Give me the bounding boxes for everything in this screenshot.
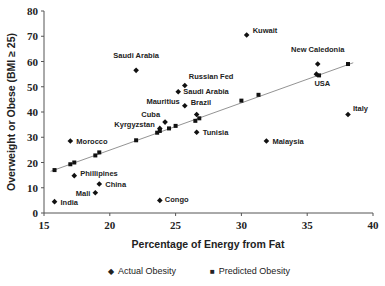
actual-point	[345, 112, 351, 118]
x-axis-title: Percentage of Energy from Fat	[132, 238, 285, 250]
actual-point	[175, 89, 181, 95]
actual-point	[315, 61, 321, 67]
x-tick-label: 40	[368, 219, 380, 231]
point-label: Morocco	[76, 137, 108, 146]
predicted-point	[239, 99, 243, 103]
predicted-point	[72, 161, 76, 165]
point-label: Brazil	[191, 98, 211, 107]
x-tick-label: 15	[39, 219, 51, 231]
actual-point	[52, 199, 58, 205]
x-tick-label: 25	[170, 219, 182, 231]
point-label: Kuwait	[253, 26, 278, 35]
y-tick-label: 20	[27, 157, 39, 169]
point-label: Russian Fed	[189, 72, 234, 81]
y-tick-label: 80	[27, 5, 39, 17]
diamond-icon: ◆	[108, 267, 114, 276]
y-tick-label: 40	[27, 106, 39, 118]
point-label: Malaysia	[272, 137, 304, 146]
point-label: Mali	[76, 189, 91, 198]
actual-point	[133, 68, 139, 74]
predicted-point	[53, 168, 57, 172]
legend-predicted: ■ Predicted Obesity	[210, 266, 290, 276]
predicted-point	[346, 62, 350, 66]
point-label: Phillipines	[80, 169, 118, 178]
y-tick-label: 10	[27, 182, 39, 194]
legend-actual-label: Actual Obesity	[118, 266, 176, 276]
predicted-point	[257, 93, 261, 97]
y-tick-label: 50	[27, 81, 39, 93]
y-tick-label: 70	[27, 30, 39, 42]
legend-predicted-label: Predicted Obesity	[219, 266, 290, 276]
actual-point	[93, 190, 99, 196]
predicted-point	[167, 126, 171, 130]
actual-point	[96, 181, 102, 187]
point-label: Saudi Arabia	[183, 87, 229, 96]
actual-point	[68, 138, 74, 144]
point-label: Kyrgyzstan	[114, 120, 155, 129]
legend-actual: ◆ Actual Obesity	[108, 266, 176, 276]
actual-point	[162, 119, 168, 125]
y-axis-title: Overweight or Obese (BMI ≥ 25)	[5, 33, 17, 191]
actual-point	[182, 103, 188, 109]
y-tick-label: 60	[27, 56, 39, 68]
point-label: China	[105, 180, 127, 189]
predicted-point	[68, 162, 72, 166]
point-label: Mauritius	[146, 97, 179, 106]
predicted-point	[134, 138, 138, 142]
scatter-chart: 01020304050607080152025303540 IndiaMaliC…	[0, 0, 385, 286]
y-tick-label: 0	[33, 207, 39, 219]
point-label: India	[61, 198, 79, 207]
point-label: USA	[314, 79, 330, 88]
x-tick-label: 20	[104, 219, 116, 231]
point-label: New Caledonia	[291, 45, 345, 54]
point-label: Saudi Arabia	[113, 51, 159, 60]
x-tick-label: 30	[236, 219, 248, 231]
actual-point	[194, 129, 200, 135]
square-icon: ■	[210, 267, 215, 276]
actual-point	[157, 198, 163, 204]
point-labels: IndiaMaliChinaPhillipinesMoroccoCongoKyr…	[61, 26, 369, 207]
predicted-point	[93, 153, 97, 157]
point-label: Tunisia	[203, 128, 230, 137]
predicted-point	[197, 116, 201, 120]
actual-point	[71, 173, 77, 179]
point-label: Cuba	[141, 110, 161, 119]
y-tick-label: 30	[27, 131, 39, 143]
predicted-point	[174, 124, 178, 128]
predicted-point	[97, 150, 101, 154]
actual-point	[264, 138, 270, 144]
actual-point	[244, 32, 250, 38]
predicted-point	[193, 119, 197, 123]
x-tick-label: 35	[302, 219, 314, 231]
point-label: Congo	[165, 195, 189, 204]
point-label: Italy	[353, 104, 369, 113]
